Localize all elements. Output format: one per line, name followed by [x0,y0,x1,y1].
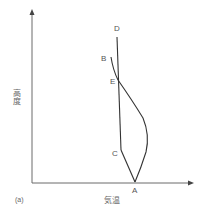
x-axis-label: 気温 [104,195,120,205]
line-c-a [121,150,135,182]
y-axis-arrow-icon [30,9,35,15]
point-label-b: B [101,54,106,63]
panel-label: (a) [15,196,24,204]
y-axis-label: 高度 [12,88,21,106]
point-label-a: A [132,186,138,195]
x-axis-arrow-icon [188,181,194,186]
curve-b-e-a [111,57,147,182]
point-label-c: C [112,149,118,158]
temperature-altitude-diagram: D B E C A 気温 高度 (a) [0,0,207,220]
point-label-e: E [110,77,115,86]
point-label-d: D [114,24,120,33]
line-d-c [117,37,121,150]
